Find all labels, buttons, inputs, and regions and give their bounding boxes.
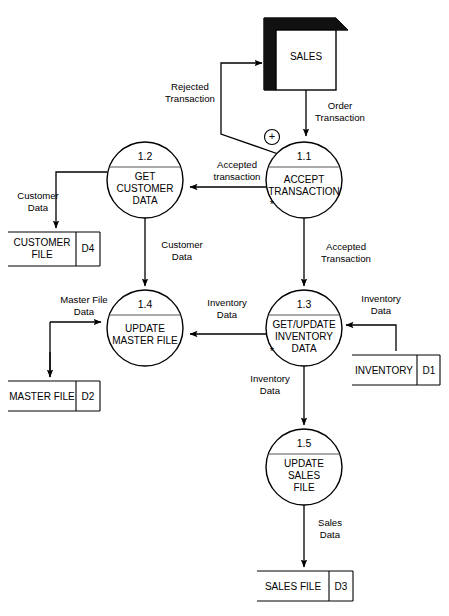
process-1-2-get-customer-data[interactable]: 1.2 GET CUSTOMER DATA — [107, 142, 183, 218]
flow-master-file-data-label-line2: Data — [74, 306, 95, 317]
flow-accepted-transaction-to-1-3-label-line1: Accepted — [326, 241, 366, 252]
process-1-5-label-line2: SALES — [288, 470, 321, 481]
flow-rejected-transaction-label-line1: Rejected — [171, 81, 209, 92]
process-1-1-label-line1: ACCEPT — [284, 174, 325, 185]
data-store-d2-label: MASTER FILE — [9, 391, 75, 402]
data-store-d4-id: D4 — [82, 243, 95, 254]
process-1-5-id: 1.5 — [297, 437, 312, 449]
data-store-d4-customer-file[interactable]: CUSTOMER FILE D4 — [8, 232, 100, 266]
data-store-d3-sales-file[interactable]: SALES FILE D3 — [257, 571, 353, 601]
flow-inventory-data-to-1-4: Inventory Data — [190, 297, 266, 334]
process-1-1-accept-transaction[interactable]: 1.1 ACCEPT TRANSACTION * — [266, 142, 342, 218]
process-1-1-asterisk: * — [270, 198, 275, 210]
flow-order-transaction-label-line2: Transaction — [315, 112, 365, 123]
flow-customer-data-to-d4-line — [56, 172, 107, 228]
data-store-d3-id: D3 — [335, 581, 348, 592]
flow-accepted-transaction-to-1-3-label-line2: Transaction — [321, 253, 371, 264]
process-1-4-id: 1.4 — [138, 298, 153, 310]
flow-order-transaction-label-line1: Order — [328, 100, 353, 111]
plus-label: + — [269, 130, 275, 142]
flow-customer-data-to-d4-label-line2: Data — [28, 202, 49, 213]
flow-accepted-transaction-to-1-2-label-line1: Accepted — [217, 159, 257, 170]
data-store-d1-inventory[interactable]: INVENTORY D1 — [352, 355, 440, 385]
flow-inventory-data-to-1-4-label-line2: Data — [217, 309, 238, 320]
data-store-d1-id: D1 — [423, 365, 436, 376]
process-1-3-get-update-inventory-data[interactable]: 1.3 GET/UPDATE INVENTORY DATA * — [266, 290, 342, 366]
flow-sales-data: Sales Data — [304, 505, 342, 567]
flow-rejected-transaction-label-line2: Transaction — [165, 93, 215, 104]
process-1-3-id: 1.3 — [297, 298, 312, 310]
process-1-4-label-line1: UPDATE — [125, 323, 165, 334]
data-store-d1-label: INVENTORY — [355, 365, 413, 376]
flow-master-file-data-label-line1: Master File — [60, 294, 107, 305]
plus-junction-symbol: + — [265, 130, 280, 145]
flow-customer-data-to-1-4-label-line2: Data — [172, 251, 193, 262]
flow-accepted-transaction-to-1-2-label-line2: transaction — [214, 171, 261, 182]
process-1-3-label-line2: INVENTORY — [275, 331, 333, 342]
data-store-d2-id: D2 — [82, 391, 95, 402]
flow-inventory-data-from-d1-line — [346, 325, 396, 351]
flow-master-file-data: Master File Data — [50, 294, 108, 377]
flow-customer-data-to-1-4: Customer Data — [145, 218, 204, 286]
process-1-5-label-line3: FILE — [293, 482, 314, 493]
process-1-2-label-line1: GET — [135, 171, 156, 182]
flow-sales-data-label-line2: Data — [320, 529, 341, 540]
data-store-d3-label: SALES FILE — [265, 581, 321, 592]
flow-accepted-transaction-to-1-2: Accepted transaction — [190, 159, 266, 187]
process-1-3-asterisk: * — [270, 345, 275, 357]
process-1-5-label-line1: UPDATE — [284, 458, 324, 469]
flow-customer-data-to-d4-label-line1: Customer — [17, 190, 59, 201]
flow-customer-data-to-d4: Customer Data — [17, 172, 107, 228]
flow-order-transaction: Order Transaction — [306, 90, 365, 136]
flow-sales-data-label-line1: Sales — [318, 517, 342, 528]
process-1-3-label-line3: DATA — [291, 343, 317, 354]
process-1-1-id: 1.1 — [297, 150, 312, 162]
process-1-2-id: 1.2 — [138, 150, 153, 162]
flow-inventory-data-from-d1-label-line2: Data — [371, 305, 392, 316]
sales-entity-corner — [336, 18, 348, 30]
process-1-4-label-line2: MASTER FILE — [112, 335, 178, 346]
data-flow-diagram: SALES Order Transaction Rejected Transac… — [0, 0, 449, 616]
data-store-d4-label-line2: FILE — [31, 249, 52, 260]
flow-inventory-data-from-d1-label-line1: Inventory — [361, 293, 401, 304]
process-1-4-update-master-file[interactable]: 1.4 UPDATE MASTER FILE — [107, 290, 183, 366]
sales-entity-label: SALES — [290, 51, 323, 62]
process-1-2-label-line3: DATA — [132, 195, 158, 206]
process-1-3-label-line1: GET/UPDATE — [272, 319, 335, 330]
flow-inventory-data-to-1-5-label-line2: Data — [260, 385, 281, 396]
external-entity-sales[interactable]: SALES — [264, 18, 348, 90]
process-1-1-label-line2: TRANSACTION — [268, 186, 340, 197]
flow-inventory-data-from-d1: Inventory Data — [346, 293, 401, 351]
data-store-d4-label-line1: CUSTOMER — [13, 237, 70, 248]
flow-customer-data-to-1-4-label-line1: Customer — [161, 239, 203, 250]
data-store-d2-master-file[interactable]: MASTER FILE D2 — [8, 381, 100, 411]
dfd-canvas: SALES Order Transaction Rejected Transac… — [0, 0, 449, 616]
flow-inventory-data-to-1-4-label-line1: Inventory — [207, 297, 247, 308]
flow-accepted-transaction-to-1-3: Accepted Transaction — [304, 218, 371, 286]
sales-entity-shadow-top — [264, 18, 348, 30]
process-1-2-label-line2: CUSTOMER — [116, 183, 173, 194]
flow-inventory-data-to-1-5: Inventory Data — [250, 366, 304, 425]
flow-inventory-data-to-1-5-label-line1: Inventory — [250, 373, 290, 384]
process-1-5-update-sales-file[interactable]: 1.5 UPDATE SALES FILE — [266, 429, 342, 505]
